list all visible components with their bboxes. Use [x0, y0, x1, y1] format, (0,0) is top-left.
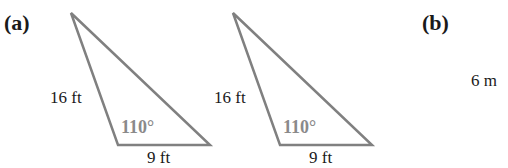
triangle-1-left-side-label: 16 ft: [50, 88, 82, 108]
part-a-label: (a): [4, 10, 30, 36]
triangle-2-left-side-label: 16 ft: [214, 88, 246, 108]
triangle-1-bottom-side-label: 9 ft: [147, 148, 170, 168]
part-b-label: (b): [422, 10, 449, 36]
triangle-1-angle-label: 110°: [121, 117, 154, 138]
part-b-side-label: 6 m: [471, 71, 497, 91]
triangle-2-angle-label: 110°: [283, 117, 316, 138]
triangle-2-bottom-side-label: 9 ft: [309, 148, 332, 168]
